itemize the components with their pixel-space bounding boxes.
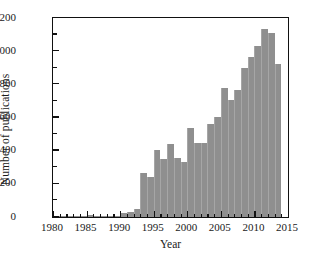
y-axis-tick <box>53 67 57 68</box>
bar <box>181 162 188 217</box>
x-axis-tick <box>187 211 188 217</box>
x-axis-tick <box>288 211 289 217</box>
y-axis-tick <box>53 183 59 184</box>
x-axis-tick <box>228 214 229 218</box>
x-axis-tick <box>207 214 208 218</box>
x-axis-tick <box>73 214 74 218</box>
x-axis-tick-label: 2015 <box>267 222 307 233</box>
x-axis-tick <box>80 214 81 218</box>
x-axis-tick <box>174 214 175 218</box>
x-axis-tick <box>167 214 168 218</box>
y-axis-tick <box>53 83 59 84</box>
x-axis-tick <box>87 211 88 217</box>
plot-area <box>52 17 289 218</box>
bar <box>221 88 228 217</box>
y-axis-tick <box>53 33 57 34</box>
x-axis-tick <box>234 214 235 218</box>
x-axis-tick <box>281 214 282 218</box>
y-axis-tick <box>53 166 57 167</box>
y-axis-tick-label: 1200 <box>0 12 16 23</box>
x-axis-tick <box>154 211 155 217</box>
y-axis-tick <box>53 116 59 117</box>
x-axis-tick <box>201 214 202 218</box>
x-axis-tick <box>93 214 94 218</box>
bar <box>154 150 161 217</box>
bar <box>160 159 167 217</box>
x-axis-tick <box>261 214 262 218</box>
bar <box>241 68 248 217</box>
x-axis-tick <box>113 214 114 218</box>
x-axis-tick <box>181 214 182 218</box>
bar <box>254 46 261 217</box>
x-axis-tick <box>53 211 54 217</box>
y-axis-tick-label: 0 <box>0 211 16 222</box>
bar <box>140 173 147 217</box>
x-axis-tick <box>160 214 161 218</box>
y-axis-tick <box>53 149 59 150</box>
bar <box>261 29 268 217</box>
bar <box>234 90 241 217</box>
x-axis-tick <box>134 214 135 218</box>
x-axis-tick <box>147 214 148 218</box>
bar-series <box>53 18 288 217</box>
x-axis-tick <box>66 214 67 218</box>
bar <box>268 33 275 217</box>
bar <box>228 100 235 217</box>
x-axis-tick <box>100 214 101 218</box>
x-axis-title: Year <box>52 238 289 250</box>
bar <box>214 117 221 217</box>
y-axis-tick <box>53 17 59 18</box>
x-axis-tick <box>241 214 242 218</box>
x-axis-tick <box>248 214 249 218</box>
bar <box>275 64 282 217</box>
x-axis-tick <box>120 211 121 217</box>
x-axis-tick <box>268 214 269 218</box>
bar <box>187 128 194 217</box>
y-axis-tick <box>53 133 57 134</box>
y-axis-tick <box>53 50 59 51</box>
y-axis-tick-label: 400 <box>0 144 16 155</box>
publications-bar-chart: Number of publications 02004006008001000… <box>0 0 310 259</box>
x-axis-tick <box>275 214 276 218</box>
bar <box>167 144 174 217</box>
y-axis-title-text: Number of publications <box>0 74 11 185</box>
bar <box>174 158 181 217</box>
bar <box>147 177 154 217</box>
x-axis-tick <box>127 214 128 218</box>
bar <box>207 124 214 217</box>
x-axis-title-text: Year <box>160 238 181 250</box>
bar <box>201 143 208 217</box>
x-axis-tick <box>107 214 108 218</box>
y-axis-tick <box>53 100 57 101</box>
x-axis-tick <box>221 211 222 217</box>
y-axis-tick-label: 1000 <box>0 45 16 56</box>
y-axis-tick <box>53 199 57 200</box>
x-axis-tick <box>254 211 255 217</box>
bar <box>248 57 255 217</box>
x-axis-tick <box>194 214 195 218</box>
x-axis-tick <box>60 214 61 218</box>
x-axis-tick <box>140 214 141 218</box>
y-axis-tick-label: 600 <box>0 111 16 122</box>
x-axis-tick <box>214 214 215 218</box>
y-axis-tick-label: 200 <box>0 177 16 188</box>
bar <box>194 143 201 217</box>
y-axis-tick-label: 800 <box>0 78 16 89</box>
